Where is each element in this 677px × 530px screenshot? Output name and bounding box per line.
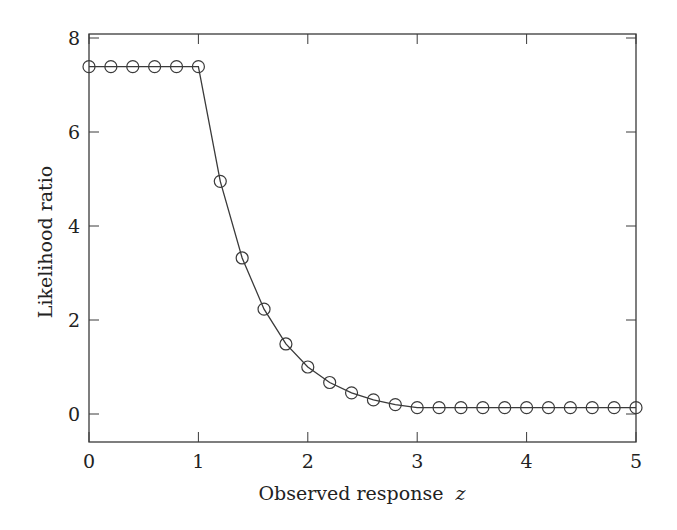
y-tick-label: 0 bbox=[68, 403, 80, 425]
x-axis-label: Observed response z bbox=[259, 482, 467, 504]
y-tick-label: 4 bbox=[68, 215, 80, 237]
x-tick-label: 3 bbox=[411, 450, 423, 472]
y-axis-label: Likelihood ratio bbox=[34, 166, 56, 318]
x-tick-label: 5 bbox=[630, 450, 642, 472]
data-curve bbox=[89, 67, 636, 408]
data-markers bbox=[83, 61, 642, 414]
x-tick-label: 0 bbox=[83, 450, 95, 472]
series-line bbox=[89, 67, 636, 408]
x-tick-label: 2 bbox=[302, 450, 314, 472]
x-axis-label-variable: z bbox=[454, 482, 466, 504]
plot-frame bbox=[89, 34, 636, 442]
likelihood-ratio-chart: 012345 02468 Observed response z Likelih… bbox=[0, 0, 677, 530]
x-tick-label: 4 bbox=[521, 450, 533, 472]
y-axis-ticks: 02468 bbox=[68, 27, 636, 425]
y-tick-label: 8 bbox=[68, 27, 80, 49]
y-tick-label: 6 bbox=[68, 121, 80, 143]
y-tick-label: 2 bbox=[68, 309, 80, 331]
x-axis-label-text: Observed response bbox=[259, 482, 444, 504]
x-tick-label: 1 bbox=[192, 450, 204, 472]
x-axis-ticks: 012345 bbox=[83, 34, 642, 472]
